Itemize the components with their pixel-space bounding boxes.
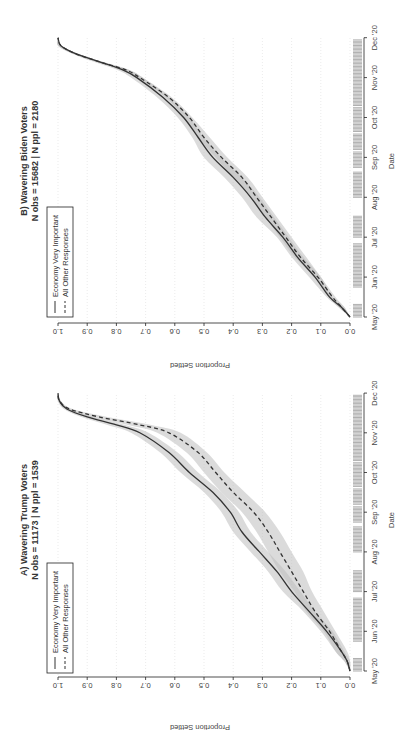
panel-a-rug (353, 395, 362, 671)
y-tick-label: 0.9 (82, 327, 92, 336)
y-tick-label: 0.0 (345, 681, 355, 690)
y-tick-label: 0.5 (199, 327, 209, 336)
panel-a-legend: Economy Very Important All Other Respons… (47, 563, 73, 673)
other-ci-band (57, 38, 350, 317)
x-tick-label: Jul '20 (370, 581, 379, 602)
y-tick-label: 1.0 (53, 681, 63, 690)
panel-a-subtitle: N obs = 11173 | N ppl = 1539 (30, 460, 40, 580)
y-tick-label: 0.8 (111, 327, 121, 336)
x-tick-label: Oct '20 (370, 461, 379, 485)
panel-b-axes: 0.00.10.20.30.40.50.60.70.80.91.0May '20… (53, 25, 379, 336)
y-tick-label: 0.2 (286, 327, 296, 336)
y-tick-label: 0.8 (111, 681, 121, 690)
x-tick-label: Dec '20 (370, 25, 379, 50)
x-tick-label: Nov '20 (370, 420, 379, 445)
x-tick-label: Jun '20 (370, 265, 379, 289)
x-tick-label: Sep '20 (370, 500, 379, 525)
y-tick-label: 0.7 (140, 327, 150, 336)
x-tick-label: Nov '20 (370, 65, 379, 90)
panel-a-title: A) Wavering Trump Voters (19, 464, 29, 576)
y-tick-label: 0.6 (170, 681, 180, 690)
panel-b-legend: Economy Very Important All Other Respons… (47, 207, 73, 317)
y-tick-label: 0.1 (316, 681, 326, 690)
panel-a-ylabel: Proportion Settled (170, 723, 230, 732)
y-tick-label: 0.7 (140, 681, 150, 690)
x-tick-label: Aug '20 (370, 185, 379, 210)
panel-a-trump: A) Wavering Trump Voters N obs = 11173 |… (19, 380, 396, 732)
panel-a-grid (58, 393, 350, 675)
figure: A) Wavering Trump Voters N obs = 11173 |… (0, 0, 405, 735)
x-tick-label: Aug '20 (370, 539, 379, 564)
panel-b-grid (58, 38, 350, 321)
y-tick-label: 0.4 (228, 327, 238, 336)
panel-a-xlabel: Date (387, 512, 396, 528)
legend-dashed-label: All Other Responses (61, 584, 70, 653)
x-tick-label: Sep '20 (370, 145, 379, 170)
y-tick-label: 0.3 (257, 327, 267, 336)
panel-b-xlabel: Date (387, 153, 396, 169)
y-tick-label: 0.2 (286, 681, 296, 690)
legend-solid-label: Economy Very Important (51, 570, 60, 653)
economy-ci-band (57, 38, 350, 317)
y-tick-label: 0.6 (170, 327, 180, 336)
y-tick-label: 0.4 (228, 681, 238, 690)
y-tick-label: 0.3 (257, 681, 267, 690)
legend-solid-label: Economy Very Important (51, 214, 60, 297)
panel-b-biden: B) Wavering Biden Voters N obs = 15682 |… (19, 25, 396, 370)
x-tick-label: Jun '20 (370, 619, 379, 643)
panel-b-ylabel: Proportion Settled (170, 361, 230, 370)
panel-b-ci-bands (57, 38, 350, 317)
x-tick-label: Dec '20 (370, 380, 379, 405)
panel-b-subtitle: N obs = 15682 | N ppl = 2180 (30, 101, 40, 222)
x-tick-label: May '20 (370, 304, 379, 330)
figure-stage: A) Wavering Trump Voters N obs = 11173 |… (0, 0, 405, 735)
x-tick-label: Jul '20 (370, 226, 379, 247)
x-tick-label: May '20 (370, 658, 379, 684)
y-tick-label: 0.0 (345, 327, 355, 336)
y-tick-label: 0.1 (316, 327, 326, 336)
panel-b-rug (353, 40, 362, 317)
panel-b-title: B) Wavering Biden Voters (19, 106, 29, 216)
y-tick-label: 1.0 (53, 327, 63, 336)
y-tick-label: 0.9 (82, 681, 92, 690)
legend-dashed-label: All Other Responses (61, 228, 70, 297)
x-tick-label: Oct '20 (370, 106, 379, 130)
y-tick-label: 0.5 (199, 681, 209, 690)
